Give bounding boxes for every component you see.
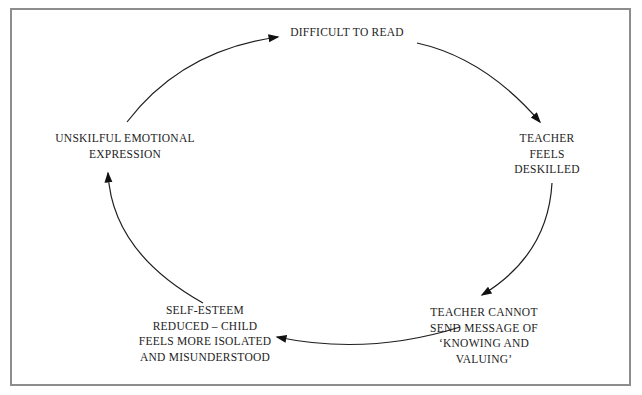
node-difficult-to-read: DIFFICULT TO READ — [290, 25, 404, 41]
node-unskilful-emotional-expression: UNSKILFUL EMOTIONAL EXPRESSION — [55, 131, 194, 162]
node-teacher-cannot-send-message: TEACHER CANNOT SEND MESSAGE OF ‘KNOWING … — [430, 305, 538, 367]
arrow-deskilled-to-cannot-send — [482, 183, 552, 295]
node-self-esteem-reduced: SELF-ESTEEM REDUCED – CHILD FEELS MORE I… — [139, 303, 272, 365]
cycle-arrows — [0, 0, 642, 395]
arrow-difficult-to-deskilled — [417, 43, 540, 122]
arrow-self-esteem-to-unskilful — [108, 173, 203, 303]
node-teacher-feels-deskilled: TEACHER FEELS DESKILLED — [514, 131, 580, 178]
arrow-unskilful-to-difficult — [127, 37, 278, 122]
cycle-diagram: DIFFICULT TO READ TEACHER FEELS DESKILLE… — [0, 0, 642, 395]
